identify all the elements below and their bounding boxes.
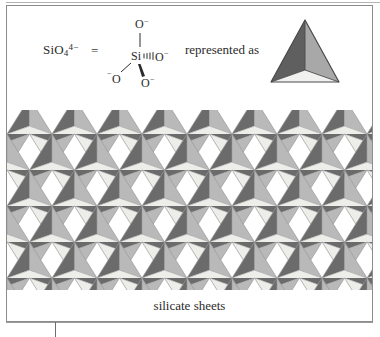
lewis-structure-diagram: O − Si O − − bbox=[103, 14, 183, 92]
top-rule bbox=[6, 2, 380, 3]
tetrahedron-icon bbox=[265, 16, 345, 88]
header-row: SiO44− = O − Si bbox=[7, 6, 373, 106]
svg-text:−: − bbox=[144, 17, 149, 26]
figure-root: SiO44− = O − Si bbox=[0, 0, 380, 337]
svg-text:Si: Si bbox=[131, 49, 142, 63]
equals-sign: = bbox=[91, 43, 98, 59]
svg-text:−: − bbox=[150, 75, 155, 84]
svg-text:−: − bbox=[164, 49, 169, 58]
svg-text:O: O bbox=[112, 72, 121, 86]
figure-frame: SiO44− = O − Si bbox=[6, 5, 373, 322]
svg-text:O: O bbox=[135, 17, 144, 31]
formula-base: SiO bbox=[43, 42, 64, 57]
formula-label: SiO44− bbox=[43, 42, 79, 58]
formula-superscript: 4− bbox=[69, 42, 79, 52]
svg-text:O: O bbox=[155, 50, 164, 64]
axis-tick-mark bbox=[55, 322, 56, 337]
svg-text:O: O bbox=[141, 76, 150, 90]
bottom-rule bbox=[6, 322, 373, 323]
silicate-lattice bbox=[7, 110, 372, 290]
represented-as-label: represented as bbox=[185, 42, 259, 58]
figure-caption: silicate sheets bbox=[7, 298, 372, 314]
